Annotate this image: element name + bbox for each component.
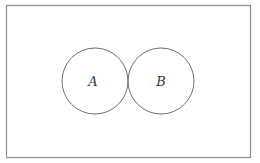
set-b-label: B: [155, 74, 166, 89]
set-a-label: A: [87, 74, 97, 89]
venn-diagram: A B: [0, 0, 260, 163]
